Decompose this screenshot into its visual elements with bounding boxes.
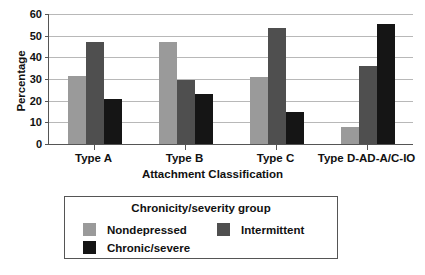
bar bbox=[195, 94, 213, 144]
bar-group bbox=[159, 14, 213, 144]
bar bbox=[268, 28, 286, 144]
bar bbox=[341, 127, 359, 144]
legend: Chronicity/severity group Nondepressed I… bbox=[64, 196, 338, 259]
x-axis-tick-mark bbox=[276, 144, 278, 150]
y-axis-tick-label: 30 bbox=[2, 74, 42, 85]
x-axis-line bbox=[45, 144, 413, 146]
x-axis-tick-mark bbox=[94, 144, 96, 150]
y-axis-tick-label: 10 bbox=[2, 117, 42, 128]
bar-group bbox=[341, 14, 395, 144]
legend-item-nondepressed: Nondepressed bbox=[83, 223, 187, 236]
bars-layer bbox=[49, 14, 413, 144]
bar bbox=[177, 80, 195, 144]
plot-area bbox=[48, 14, 413, 144]
legend-item-intermittent: Intermittent bbox=[217, 223, 304, 236]
x-axis-tick-mark bbox=[185, 144, 187, 150]
bar bbox=[359, 66, 377, 144]
legend-title: Chronicity/severity group bbox=[65, 202, 337, 214]
y-axis-tick-label: 60 bbox=[2, 9, 42, 20]
bar bbox=[159, 42, 177, 144]
x-axis-tick-label: Type D-AD-A/C-IO bbox=[287, 152, 425, 164]
legend-item-label: Chronic/severe bbox=[107, 242, 190, 254]
x-axis-title: Attachment Classification bbox=[0, 168, 425, 180]
y-axis-tick-label: 20 bbox=[2, 96, 42, 107]
bar-group bbox=[250, 14, 304, 144]
y-axis-tick-label: 40 bbox=[2, 52, 42, 63]
x-axis-tick-mark bbox=[367, 144, 369, 150]
bar bbox=[86, 42, 104, 144]
legend-swatch-icon bbox=[83, 223, 96, 236]
y-axis-tick-label: 50 bbox=[2, 31, 42, 42]
legend-swatch-icon bbox=[83, 241, 96, 254]
bar-chart-figure: Percentage 0102030405060 Type AType BTyp… bbox=[0, 0, 425, 275]
bar bbox=[250, 77, 268, 144]
y-axis-tick-label: 0 bbox=[2, 139, 42, 150]
legend-swatch-icon bbox=[217, 223, 230, 236]
legend-item-label: Intermittent bbox=[241, 224, 304, 236]
legend-item-label: Nondepressed bbox=[107, 224, 187, 236]
bar bbox=[377, 24, 395, 144]
bar bbox=[68, 76, 86, 144]
bar bbox=[286, 112, 304, 145]
bar bbox=[104, 99, 122, 145]
bar-group bbox=[68, 14, 122, 144]
legend-item-chronic-severe: Chronic/severe bbox=[83, 241, 190, 254]
